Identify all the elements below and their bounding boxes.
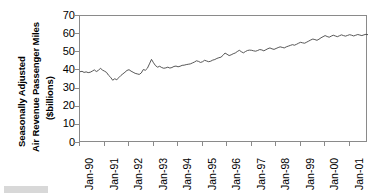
y-axis-tick-labels: 010203040506070 xyxy=(0,0,75,194)
y-tick-label: 40 xyxy=(5,64,75,74)
y-tick-mark xyxy=(74,51,79,52)
x-tick-label: Jan-90 xyxy=(83,158,95,190)
x-tick-mark xyxy=(251,142,252,146)
x-tick-mark xyxy=(275,142,276,146)
y-tick-label: 0 xyxy=(5,137,75,147)
x-tick-mark xyxy=(79,142,80,146)
page-corner-mark xyxy=(4,186,48,193)
plot-area xyxy=(79,15,367,142)
y-tick-mark xyxy=(74,88,79,89)
x-tick-label: Jan-94 xyxy=(181,158,193,190)
y-tick-label: 70 xyxy=(5,10,75,20)
chart-figure: Seasonally Adjusted Air Revenue Passenge… xyxy=(0,0,379,194)
series-line-air-revenue-passenger-miles xyxy=(80,16,368,143)
x-tick-label: Jan-99 xyxy=(304,158,316,190)
y-tick-mark xyxy=(74,124,79,125)
x-tick-label: Jan-96 xyxy=(230,158,242,190)
x-tick-mark xyxy=(128,142,129,146)
y-tick-label: 60 xyxy=(5,28,75,38)
y-tick-label: 50 xyxy=(5,46,75,56)
y-tick-label: 10 xyxy=(5,118,75,128)
y-tick-label: 30 xyxy=(5,82,75,92)
x-tick-mark xyxy=(177,142,178,146)
y-tick-mark xyxy=(74,106,79,107)
x-tick-mark xyxy=(324,142,325,146)
x-tick-mark xyxy=(300,142,301,146)
y-tick-mark xyxy=(74,15,79,16)
x-tick-label: Jan-93 xyxy=(157,158,169,190)
x-tick-mark xyxy=(349,142,350,146)
x-tick-label: Jan-91 xyxy=(108,158,120,190)
y-tick-mark xyxy=(74,33,79,34)
x-tick-label: Jan-97 xyxy=(255,158,267,190)
y-tick-mark xyxy=(74,69,79,70)
x-tick-label: Jan-95 xyxy=(206,158,218,190)
x-tick-mark xyxy=(104,142,105,146)
y-tick-label: 20 xyxy=(5,100,75,110)
x-tick-mark xyxy=(153,142,154,146)
x-tick-label: Jan-98 xyxy=(279,158,291,190)
x-tick-mark xyxy=(226,142,227,146)
x-tick-label: Jan-00 xyxy=(328,158,340,190)
x-tick-mark xyxy=(202,142,203,146)
x-tick-label: Jan-92 xyxy=(132,158,144,190)
x-tick-label: Jan-01 xyxy=(353,158,365,190)
